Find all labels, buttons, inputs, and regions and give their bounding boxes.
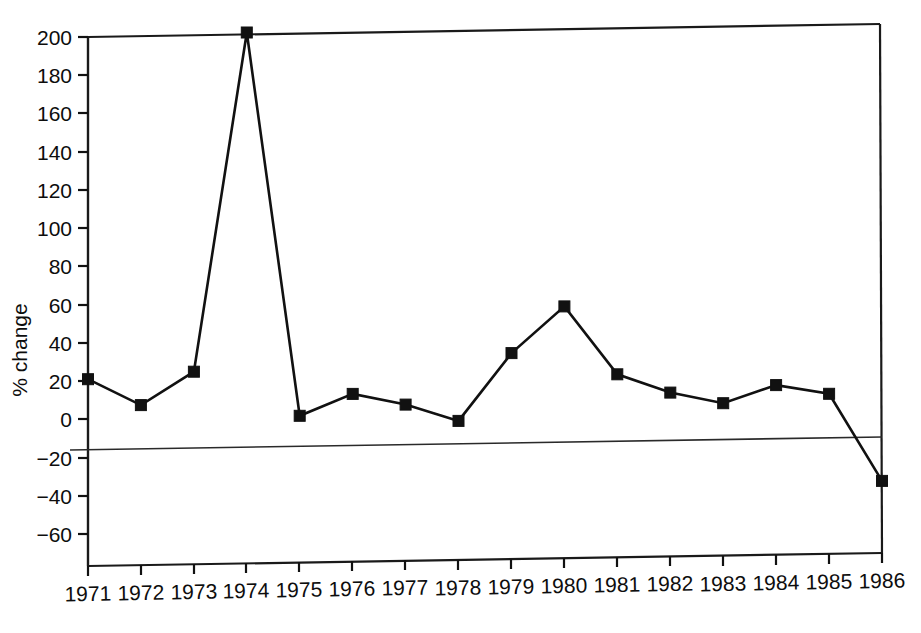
y-axis-title: % change bbox=[8, 303, 31, 396]
y-tick-label-60: 60 bbox=[49, 294, 72, 317]
y-tick-label-100: 100 bbox=[37, 217, 72, 240]
data-point-1985 bbox=[824, 388, 835, 399]
x-tick-label-1981: 1981 bbox=[593, 573, 640, 597]
chart-figure: 200 180 160 140 120 100 80 60 40 20 0 −2… bbox=[0, 0, 921, 633]
y-tick-label-0: 0 bbox=[60, 408, 72, 431]
x-tick-label-1973: 1973 bbox=[170, 580, 217, 604]
x-tick-label-1975: 1975 bbox=[275, 578, 322, 602]
y-tick-label-160: 160 bbox=[37, 102, 72, 125]
data-point-1986 bbox=[877, 475, 888, 486]
x-tick-label-1984: 1984 bbox=[752, 571, 799, 595]
data-point-1983 bbox=[718, 398, 729, 409]
data-point-1982 bbox=[665, 387, 676, 398]
data-point-1981 bbox=[612, 369, 623, 380]
y-tick-label-140: 140 bbox=[37, 141, 72, 164]
x-tick-label-1983: 1983 bbox=[699, 572, 746, 596]
y-tick-label-120: 120 bbox=[37, 179, 72, 202]
data-point-1971 bbox=[83, 374, 94, 385]
x-tick-label-1972: 1972 bbox=[117, 581, 164, 605]
x-tick-label-1985: 1985 bbox=[805, 570, 852, 594]
data-point-1977 bbox=[400, 399, 411, 410]
data-point-1979 bbox=[506, 348, 517, 359]
x-tick-label-1977: 1977 bbox=[381, 576, 428, 600]
x-tick-label-1974: 1974 bbox=[222, 579, 269, 603]
y-tick-label-neg40: −40 bbox=[36, 485, 72, 508]
data-point-1978 bbox=[453, 415, 464, 426]
x-tick-label-1982: 1982 bbox=[646, 572, 693, 596]
line-chart-canvas: 200 180 160 140 120 100 80 60 40 20 0 −2… bbox=[0, 0, 921, 633]
chart-background bbox=[0, 0, 921, 633]
x-tick-label-1971: 1971 bbox=[64, 582, 111, 606]
data-point-1980 bbox=[559, 301, 570, 312]
data-point-1976 bbox=[347, 388, 358, 399]
data-point-1984 bbox=[771, 380, 782, 391]
x-tick-label-1976: 1976 bbox=[328, 577, 375, 601]
y-tick-label-neg60: −60 bbox=[36, 523, 72, 546]
y-tick-label-20: 20 bbox=[49, 370, 72, 393]
y-tick-label-200: 200 bbox=[37, 26, 72, 49]
x-tick-label-1980: 1980 bbox=[540, 574, 587, 598]
x-tick-label-1986: 1986 bbox=[858, 569, 905, 593]
y-tick-label-40: 40 bbox=[49, 332, 72, 355]
data-point-1972 bbox=[135, 400, 146, 411]
y-tick-label-80: 80 bbox=[49, 255, 72, 278]
data-point-1973 bbox=[188, 366, 199, 377]
data-point-1975 bbox=[294, 410, 305, 421]
data-point-1974 bbox=[241, 27, 252, 38]
x-tick-label-1979: 1979 bbox=[487, 575, 534, 599]
y-tick-label-180: 180 bbox=[37, 64, 72, 87]
x-tick-label-1978: 1978 bbox=[434, 576, 481, 600]
y-tick-label-neg20: −20 bbox=[36, 447, 72, 470]
